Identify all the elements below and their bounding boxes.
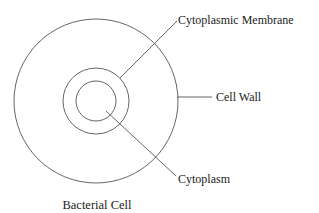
cytoplasm-label: Cytoplasm	[178, 172, 231, 186]
cytoplasm-leader-line	[106, 111, 176, 176]
bacterial-cell-diagram: Cytoplasmic Membrane Cell Wall Cytoplasm…	[0, 0, 319, 213]
membrane-label: Cytoplasmic Membrane	[178, 13, 294, 27]
membrane-leader-line	[120, 21, 177, 78]
cell-wall-label: Cell Wall	[216, 90, 262, 104]
diagram-caption: Bacterial Cell	[62, 198, 132, 212]
cytoplasmic-membrane-circle	[63, 68, 129, 134]
cell-wall-circle	[14, 19, 178, 183]
